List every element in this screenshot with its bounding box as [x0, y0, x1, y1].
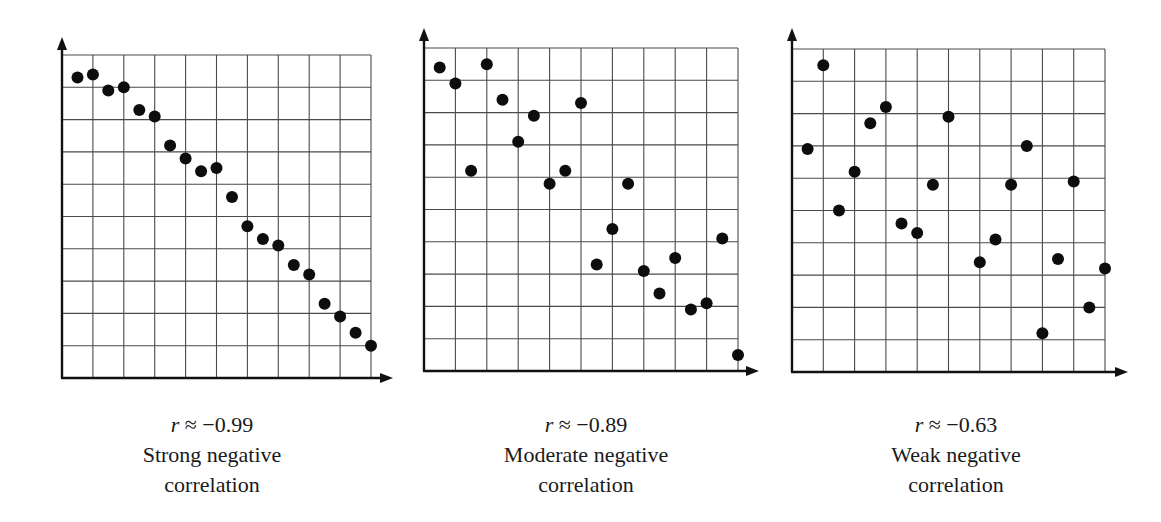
- data-point: [497, 94, 509, 106]
- data-point: [481, 58, 493, 70]
- data-point: [288, 259, 300, 271]
- data-point: [716, 233, 728, 245]
- data-point: [241, 220, 253, 232]
- y-axis-arrow-icon: [787, 28, 797, 41]
- data-point: [180, 152, 192, 164]
- data-point: [195, 165, 207, 177]
- data-point: [864, 117, 876, 129]
- data-point: [654, 288, 666, 300]
- data-point: [102, 85, 114, 97]
- correlation-description: Strong negative: [62, 440, 362, 470]
- data-point: [701, 297, 713, 309]
- data-point: [1036, 327, 1048, 339]
- data-point: [272, 240, 284, 252]
- data-point: [622, 178, 634, 190]
- data-point: [465, 165, 477, 177]
- data-point: [164, 139, 176, 151]
- data-point: [1083, 301, 1095, 313]
- correlation-description: Moderate negative: [436, 440, 736, 470]
- caption-moderate-negative: r ≈ −0.89 Moderate negative correlation: [436, 410, 736, 500]
- data-point: [896, 217, 908, 229]
- data-point: [544, 178, 556, 190]
- x-axis-arrow-icon: [380, 373, 393, 383]
- data-point: [911, 227, 923, 239]
- data-points: [802, 59, 1111, 339]
- data-point: [927, 179, 939, 191]
- data-point: [669, 252, 681, 264]
- data-point: [1099, 263, 1111, 275]
- data-point: [211, 162, 223, 174]
- data-point: [685, 304, 697, 316]
- r-symbol: r: [545, 412, 554, 437]
- data-point: [512, 136, 524, 148]
- correlation-description: Weak negative: [806, 440, 1106, 470]
- data-point: [943, 111, 955, 123]
- scatter-plot-strong-negative: [57, 37, 393, 383]
- caption-strong-negative: r ≈ −0.99 Strong negative correlation: [62, 410, 362, 500]
- data-point: [802, 143, 814, 155]
- data-point: [1052, 253, 1064, 265]
- data-point: [817, 59, 829, 71]
- grid: [424, 48, 738, 371]
- data-point: [133, 104, 145, 116]
- data-point: [638, 265, 650, 277]
- r-value: ≈ −0.63: [923, 412, 997, 437]
- correlation-coefficient-label: r ≈ −0.89: [436, 410, 736, 440]
- data-point: [449, 78, 461, 90]
- data-point: [72, 72, 84, 84]
- r-value: ≈ −0.89: [553, 412, 627, 437]
- data-point: [350, 327, 362, 339]
- scatter-plot-moderate-negative: [419, 28, 759, 376]
- data-point: [990, 234, 1002, 246]
- y-axis-arrow-icon: [419, 28, 429, 41]
- data-point: [434, 61, 446, 73]
- data-point: [849, 166, 861, 178]
- correlation-coefficient-label: r ≈ −0.99: [62, 410, 362, 440]
- x-axis-arrow-icon: [746, 366, 759, 376]
- r-symbol: r: [171, 412, 180, 437]
- scatter-plot-weak-negative: [787, 28, 1128, 377]
- data-point: [1021, 140, 1033, 152]
- correlation-description-line2: correlation: [436, 470, 736, 500]
- x-axis-arrow-icon: [1115, 367, 1128, 377]
- data-point: [833, 205, 845, 217]
- data-point: [334, 311, 346, 323]
- data-point: [1068, 175, 1080, 187]
- correlation-description-line2: correlation: [62, 470, 362, 500]
- data-point: [1005, 179, 1017, 191]
- data-point: [732, 349, 744, 361]
- data-point: [303, 269, 315, 281]
- data-point: [319, 298, 331, 310]
- data-point: [559, 165, 571, 177]
- correlation-coefficient-label: r ≈ −0.63: [806, 410, 1106, 440]
- data-point: [257, 233, 269, 245]
- data-point: [528, 110, 540, 122]
- y-axis-arrow-icon: [57, 37, 67, 50]
- grid: [62, 55, 371, 378]
- caption-weak-negative: r ≈ −0.63 Weak negative correlation: [806, 410, 1106, 500]
- data-point: [974, 256, 986, 268]
- data-point: [880, 101, 892, 113]
- figure-correlation-comparison: r ≈ −0.99 Strong negative correlation r …: [0, 0, 1161, 522]
- correlation-description-line2: correlation: [806, 470, 1106, 500]
- r-value: ≈ −0.99: [179, 412, 253, 437]
- data-point: [87, 68, 99, 80]
- data-points: [72, 68, 378, 351]
- data-point: [575, 97, 587, 109]
- data-point: [149, 110, 161, 122]
- data-point: [365, 340, 377, 352]
- data-point: [591, 258, 603, 270]
- data-point: [606, 223, 618, 235]
- data-point: [226, 191, 238, 203]
- data-point: [118, 81, 130, 93]
- r-symbol: r: [915, 412, 924, 437]
